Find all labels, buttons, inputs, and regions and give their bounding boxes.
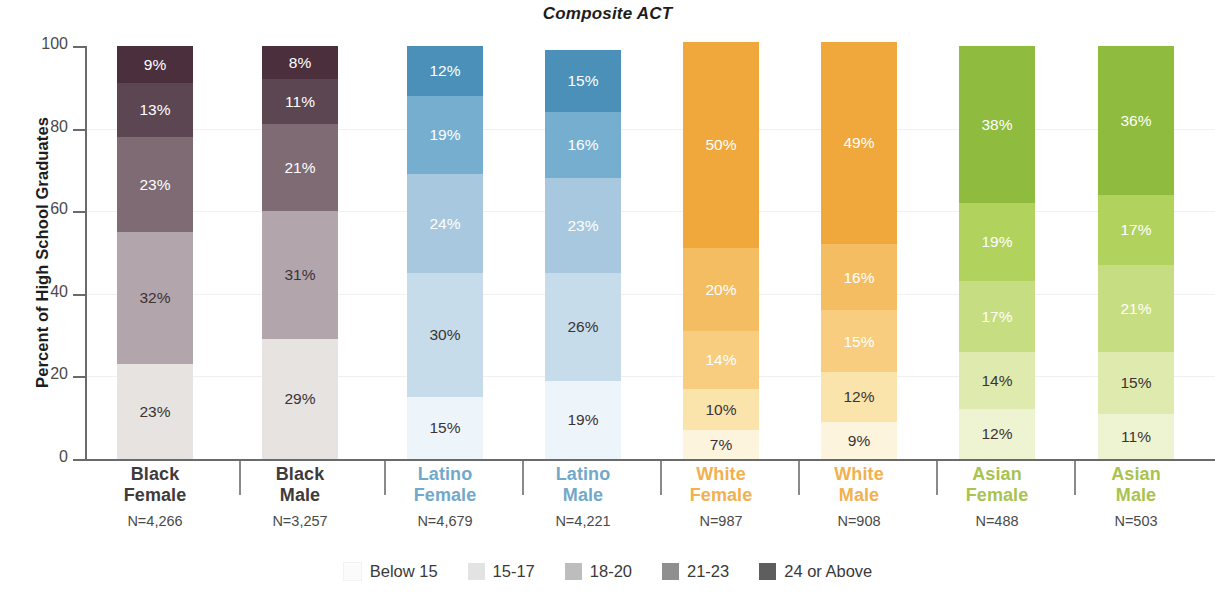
bar-segment[interactable]: 13% [117,83,193,137]
bar-segment[interactable]: 8% [262,46,338,79]
bar-segment[interactable]: 19% [545,381,621,459]
bar-latino-female[interactable]: 15%30%24%19%12% [407,46,483,459]
category-name: White Male [784,464,934,506]
bar-segment-value-label: 8% [289,55,311,71]
bar-segment-value-label: 15% [567,73,598,89]
legend-item[interactable]: 18-20 [565,562,632,581]
legend-label: Below 15 [370,562,438,581]
bar-segment-value-label: 19% [429,127,460,143]
y-tick-mark [73,459,85,461]
bar-segment-value-label: 15% [429,420,460,436]
bar-segment[interactable]: 9% [117,46,193,83]
chart-title: Composite ACT [0,4,1215,24]
bar-segment[interactable]: 23% [545,178,621,273]
category-black-male: Black MaleN=3,257 [225,464,375,529]
legend-swatch [468,563,485,580]
bar-segment[interactable]: 14% [683,331,759,389]
bar-segment[interactable]: 36% [1098,46,1174,195]
bar-segment-value-label: 17% [981,309,1012,325]
bar-segment[interactable]: 12% [821,372,897,422]
bar-segment-value-label: 23% [139,177,170,193]
legend-item[interactable]: 24 or Above [759,562,872,581]
legend-swatch [565,563,582,580]
bar-segment[interactable]: 38% [959,46,1035,203]
legend-item[interactable]: 15-17 [468,562,535,581]
bar-segment[interactable]: 23% [117,364,193,459]
bar-segment-value-label: 29% [284,391,315,407]
category-name: Latino Male [508,464,658,506]
legend-label: 24 or Above [784,562,872,581]
bar-black-male[interactable]: 29%31%21%11%8% [262,46,338,459]
bar-segment[interactable]: 17% [959,281,1035,351]
bar-latino-male[interactable]: 19%26%23%16%15% [545,46,621,459]
y-tick-label: 40 [18,283,68,301]
bar-segment[interactable]: 19% [407,96,483,174]
bar-segment[interactable]: 10% [683,389,759,430]
category-sample-size: N=3,257 [225,513,375,529]
bar-segment[interactable]: 15% [545,50,621,112]
bar-segment[interactable]: 19% [959,203,1035,281]
bar-segment[interactable]: 31% [262,211,338,339]
category-white-male: White MaleN=908 [784,464,934,529]
bar-segment-value-label: 9% [848,433,870,449]
bar-segment[interactable]: 21% [262,124,338,211]
category-name: Asian Female [922,464,1072,506]
bar-segment[interactable]: 16% [821,244,897,310]
bar-segment[interactable]: 12% [959,409,1035,459]
bar-segment[interactable]: 49% [821,42,897,244]
category-name: Black Female [80,464,230,506]
category-latino-male: Latino MaleN=4,221 [508,464,658,529]
bar-segment[interactable]: 21% [1098,265,1174,352]
bar-segment[interactable]: 50% [683,42,759,249]
y-tick-mark [73,46,85,48]
bar-segment-value-label: 31% [284,267,315,283]
bar-segment[interactable]: 23% [117,137,193,232]
bar-segment[interactable]: 20% [683,248,759,331]
bar-segment[interactable]: 16% [545,112,621,178]
bar-segment-value-label: 15% [1120,375,1151,391]
bar-segment-value-label: 16% [843,270,874,286]
bar-asian-male[interactable]: 11%15%21%17%36% [1098,46,1174,459]
category-sample-size: N=908 [784,513,934,529]
bar-segment-value-label: 15% [843,334,874,350]
bar-segment[interactable]: 11% [1098,414,1174,459]
bar-asian-female[interactable]: 12%14%17%19%38% [959,46,1035,459]
category-asian-female: Asian FemaleN=488 [922,464,1072,529]
bar-segment-value-label: 14% [981,373,1012,389]
bar-segment[interactable]: 12% [407,46,483,96]
bar-segment[interactable]: 11% [262,79,338,124]
bar-segment-value-label: 38% [981,117,1012,133]
category-sample-size: N=488 [922,513,1072,529]
bar-segment[interactable]: 14% [959,352,1035,410]
legend-item[interactable]: 21-23 [662,562,729,581]
y-tick-label: 20 [18,365,68,383]
bar-segment-value-label: 36% [1120,113,1151,129]
bar-segment[interactable]: 29% [262,339,338,459]
category-asian-male: Asian MaleN=503 [1061,464,1211,529]
bar-segment-value-label: 13% [139,102,170,118]
bar-segment[interactable]: 24% [407,174,483,273]
legend-swatch [343,562,362,581]
bar-segment[interactable]: 32% [117,232,193,364]
legend-item[interactable]: Below 15 [343,562,438,581]
bar-black-female[interactable]: 23%32%23%13%9% [117,46,193,459]
y-tick-label: 0 [18,448,68,466]
bar-white-female[interactable]: 7%10%14%20%50% [683,46,759,459]
bar-segment[interactable]: 15% [407,397,483,459]
bar-segment-value-label: 19% [981,234,1012,250]
bar-segment[interactable]: 15% [821,310,897,372]
bar-segment[interactable]: 26% [545,273,621,380]
category-sample-size: N=4,679 [370,513,520,529]
bar-white-male[interactable]: 9%12%15%16%49% [821,46,897,459]
bar-segment-value-label: 7% [710,437,732,453]
bar-segment-value-label: 49% [843,135,874,151]
bar-segment[interactable]: 15% [1098,352,1174,414]
bar-segment-value-label: 50% [705,137,736,153]
bar-segment[interactable]: 7% [683,430,759,459]
legend-swatch [662,563,679,580]
bar-segment-value-label: 17% [1120,222,1151,238]
bar-segment[interactable]: 17% [1098,195,1174,265]
legend-swatch [759,563,776,580]
bar-segment[interactable]: 30% [407,273,483,397]
bar-segment[interactable]: 9% [821,422,897,459]
